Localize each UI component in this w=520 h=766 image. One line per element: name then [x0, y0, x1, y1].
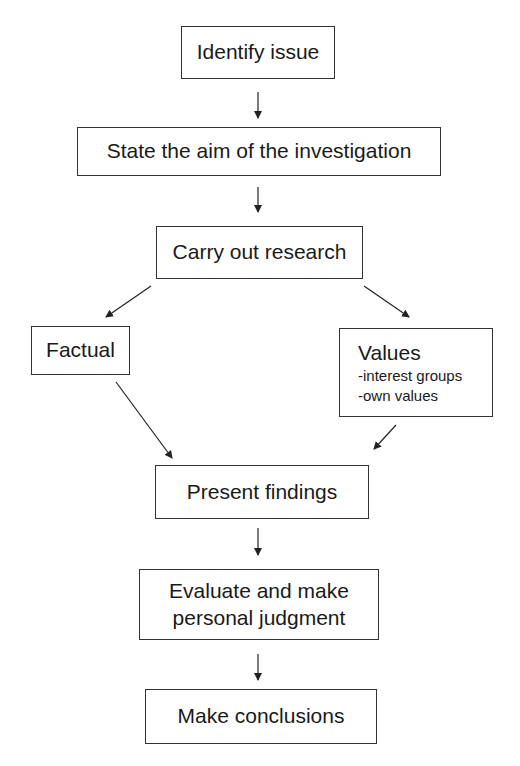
node-identify-issue: Identify issue: [181, 26, 335, 79]
node-factual: Factual: [31, 326, 130, 375]
node-present-findings: Present findings: [155, 465, 369, 519]
values-item-interest-groups: -interest groups: [358, 366, 492, 386]
node-label: Make conclusions: [178, 703, 345, 729]
arrow-research-to-values: [364, 286, 409, 317]
arrow-values-to-present: [374, 425, 396, 449]
node-label: Present findings: [187, 479, 338, 505]
node-state-aim: State the aim of the investigation: [77, 127, 441, 176]
values-item-own-values: -own values: [358, 386, 492, 406]
node-make-conclusions: Make conclusions: [145, 689, 377, 744]
node-label: Factual: [46, 337, 115, 363]
node-label: State the aim of the investigation: [107, 138, 412, 164]
node-label: Values: [358, 340, 492, 366]
node-label: Identify issue: [197, 39, 320, 65]
node-label-line1: Evaluate and make: [169, 578, 349, 604]
node-label-line2: personal judgment: [173, 605, 346, 631]
node-evaluate-judgment: Evaluate and make personal judgment: [139, 569, 379, 640]
node-values: Values -interest groups -own values: [339, 328, 493, 417]
node-label: Carry out research: [173, 239, 347, 265]
arrow-research-to-factual: [106, 286, 151, 317]
node-carry-out-research: Carry out research: [156, 226, 363, 279]
arrow-factual-to-present: [116, 382, 172, 458]
